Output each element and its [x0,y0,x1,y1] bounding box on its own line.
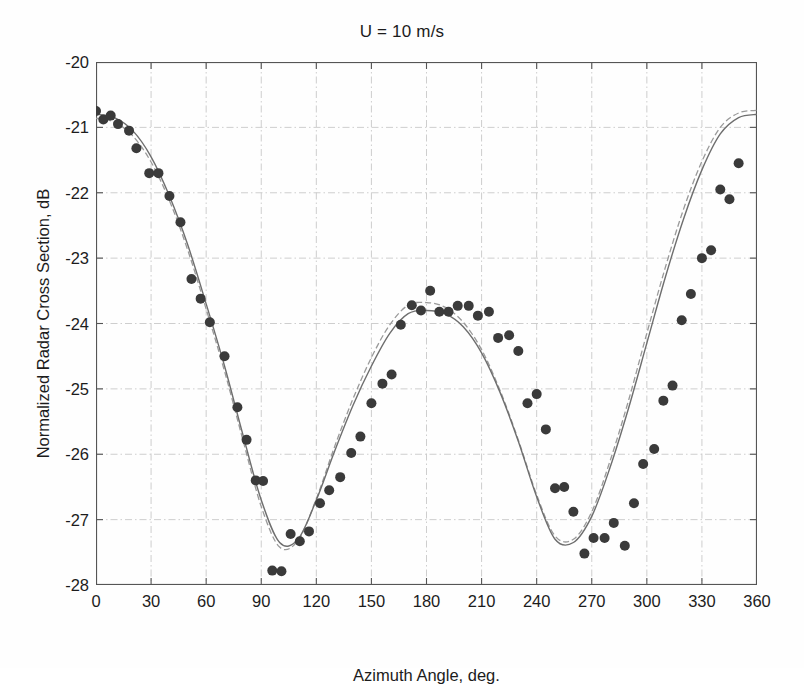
x-tick-label: 150 [358,592,386,611]
x-tick-label: 210 [468,592,496,611]
x-tick-label: 120 [303,592,331,611]
chart-title: U = 10 m/s [0,22,804,42]
y-tick-label: -22 [65,183,89,202]
x-tick-label: 360 [743,592,771,611]
x-axis-label: Azimuth Angle, deg. [96,666,757,685]
y-tick-label: -23 [65,249,89,268]
y-tick-label: -28 [65,576,89,595]
x-tick-label: 90 [252,592,270,611]
y-tick-label: -25 [65,379,89,398]
x-tick-label: 60 [197,592,215,611]
y-tick-label: -26 [65,445,89,464]
x-axis-tick-labels: 0306090120150180210240270300330360 [96,62,757,585]
x-tick-label: 0 [91,592,100,611]
y-tick-label: -27 [65,510,89,529]
x-tick-label: 30 [142,592,160,611]
x-tick-label: 300 [633,592,661,611]
y-axis-label: Normalized Radar Cross Section, dB [30,62,56,585]
y-tick-label: -20 [65,53,89,72]
x-tick-label: 330 [688,592,716,611]
x-tick-label: 270 [578,592,606,611]
x-tick-label: 240 [523,592,551,611]
y-tick-label: -24 [65,314,89,333]
plot-area: -28-27-26-25-24-23-22-21-20 030609012015… [96,62,757,585]
x-tick-label: 180 [413,592,441,611]
y-tick-label: -21 [65,118,89,137]
